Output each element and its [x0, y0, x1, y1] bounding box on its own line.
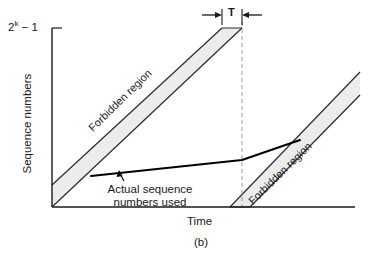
interval-T-left-arrowhead	[215, 12, 222, 18]
figure-svg	[0, 0, 369, 259]
forbidden-region-band-2-upper-edge	[230, 72, 360, 207]
y-axis-title: Sequence numbers	[21, 65, 34, 183]
x-axis-title: Time	[187, 215, 212, 228]
forbidden-region-band-1-upper-edge	[52, 28, 222, 185]
sequence-number-wraparound-figure: 2k − 1 Sequence numbers Time (b) T Forbi…	[0, 0, 369, 259]
figure-caption: (b)	[194, 236, 208, 249]
interval-T-right-arrowhead	[242, 12, 249, 18]
actual-sequence-annotation-line-1: Actual sequence	[90, 183, 210, 196]
forbidden-region-band-1-lower-edge	[52, 28, 242, 207]
actual-sequence-annotation: Actual sequence numbers used	[90, 183, 210, 209]
y-axis-max-value-label: 2k − 1	[8, 21, 38, 34]
forbidden-region-band-2	[230, 72, 360, 207]
interval-T-label: T	[228, 6, 235, 19]
y-axis-max-suffix: − 1	[18, 21, 38, 33]
forbidden-region-band-1	[52, 28, 242, 207]
actual-sequence-annotation-line-2: numbers used	[90, 196, 210, 209]
